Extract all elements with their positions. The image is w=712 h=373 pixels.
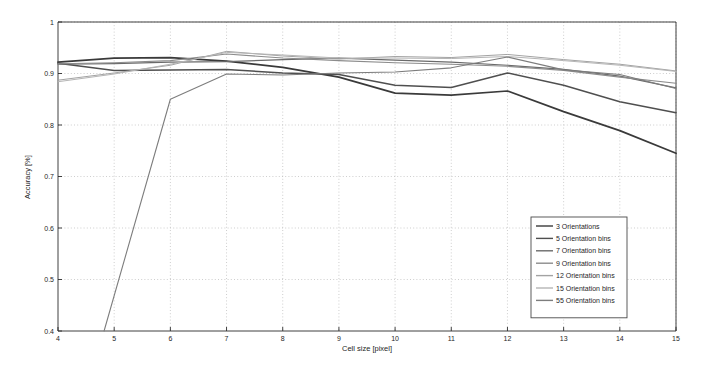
x-tick-label: 7 [225,335,229,342]
y-tick-label: 0.4 [44,328,54,335]
accuracy-vs-cell-size-chart: 456789101112131415 0.40.50.60.70.80.91 C… [0,0,712,373]
figure-canvas: 456789101112131415 0.40.50.60.70.80.91 C… [0,0,712,373]
legend-label-1: 3 Orientations [556,223,600,230]
x-tick-label: 9 [337,335,341,342]
y-tick-label: 0.6 [44,225,54,232]
legend[interactable]: 3 Orientations5 Orientation bins7 Orient… [531,217,627,318]
y-tick-label: 0.5 [44,276,54,283]
legend-label-4: 9 Orientation bins [556,260,611,267]
y-tick-label: 1 [50,19,54,26]
legend-label-6: 15 Orientation bins [556,285,615,292]
x-tick-label: 10 [391,335,399,342]
y-tick-label: 0.8 [44,122,54,129]
x-tick-label: 12 [504,335,512,342]
legend-label-3: 7 Orientation bins [556,247,611,254]
legend-label-7: 55 Orientation bins [556,297,615,304]
x-axis-title: Cell size [pixel] [342,344,392,353]
x-tick-label: 6 [168,335,172,342]
y-tick-label: 0.7 [44,173,54,180]
y-tick-label: 0.9 [44,70,54,77]
legend-label-5: 12 Orientation bins [556,272,615,279]
x-tick-label: 15 [672,335,680,342]
x-tick-label: 13 [560,335,568,342]
x-tick-label: 8 [281,335,285,342]
x-tick-label: 5 [112,335,116,342]
y-axis-title: Accuracy [%] [23,155,32,199]
x-tick-label: 14 [616,335,624,342]
x-tick-label: 4 [56,335,60,342]
legend-label-2: 5 Orientation bins [556,235,611,242]
x-tick-label: 11 [448,335,455,342]
